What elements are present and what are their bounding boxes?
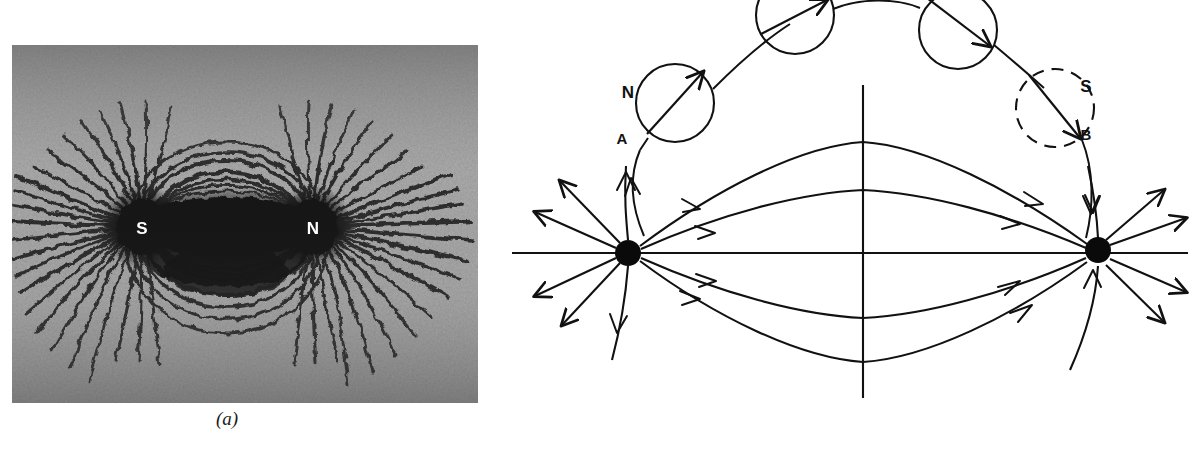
diagram-label-a: A: [617, 130, 628, 147]
figure-page: S N (a): [0, 0, 1198, 456]
panel-a-photograph: S N (a): [0, 0, 500, 456]
compass-circle-3: [919, 0, 997, 69]
photo-pole-label-s: S: [136, 219, 147, 238]
caption-a: (a): [216, 408, 238, 430]
pole-dot-b: [1085, 237, 1111, 263]
diagram-label-n: N: [622, 83, 634, 102]
field-line-arrowheads: [680, 192, 1043, 322]
pole-a-rays: [535, 166, 628, 360]
diagram-label-b: B: [1081, 126, 1092, 143]
photo-svg: S N: [12, 45, 478, 403]
pole-dot-a: [615, 240, 641, 266]
panel-b-diagram: N A S B (b): [500, 0, 1198, 456]
photo-pole-label-n: N: [307, 219, 319, 238]
iron-filings-photo: S N: [12, 45, 478, 403]
diagram-label-s: S: [1080, 77, 1091, 96]
pole-b-rays: [1070, 166, 1186, 370]
compass-circle-2: [756, 0, 834, 54]
field-diagram-svg: N A S B: [500, 0, 1198, 456]
